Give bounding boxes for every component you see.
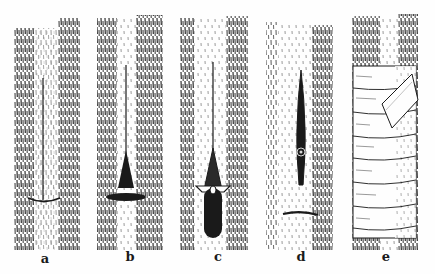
panel-label-a: a xyxy=(41,251,49,266)
panel-label-d: d xyxy=(296,249,305,264)
stem-b xyxy=(97,15,163,250)
bud-eye xyxy=(210,186,216,194)
panel-label-e: e xyxy=(382,249,390,264)
stem-a xyxy=(14,18,80,250)
bud-shield-bottom xyxy=(204,188,222,238)
panel-label-c: c xyxy=(214,249,222,264)
stem-d xyxy=(266,22,333,250)
budding-illustration xyxy=(0,0,435,274)
binding-wrap xyxy=(353,66,418,238)
panel-label-b: b xyxy=(125,249,134,264)
stem-c xyxy=(180,16,248,250)
stem-e xyxy=(352,14,418,250)
